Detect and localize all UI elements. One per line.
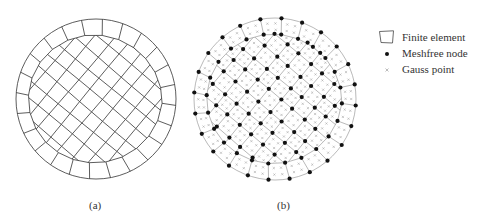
panel-b-caption: (b) — [277, 199, 290, 211]
meshfree-node — [306, 41, 310, 45]
meshfree-node — [300, 95, 304, 99]
meshfree-node — [333, 104, 337, 108]
meshfree-node — [308, 170, 312, 174]
panel-a-caption: (a) — [89, 199, 101, 211]
meshfree-node — [220, 35, 224, 39]
meshfree-node — [313, 127, 317, 131]
meshfree-node — [270, 131, 274, 135]
meshfree-node — [238, 145, 242, 149]
meshfree-node — [340, 101, 344, 105]
meshfree-node — [353, 82, 357, 86]
meshfree-node — [320, 71, 324, 75]
meshfree-node — [192, 90, 196, 94]
meshfree-node — [286, 42, 290, 46]
meshfree-node — [205, 93, 209, 97]
meshfree-node — [222, 69, 226, 73]
meshfree-node — [235, 102, 239, 106]
meshfree-node — [225, 112, 229, 116]
legend-label: Finite element — [402, 31, 465, 43]
meshfree-node — [333, 70, 337, 74]
meshfree-node — [273, 153, 277, 157]
meshfree-node — [296, 51, 300, 55]
meshfree-node — [247, 112, 251, 116]
meshfree-node — [267, 87, 271, 91]
meshfree-node — [206, 51, 210, 55]
meshfree-node — [346, 62, 350, 66]
meshfree-node — [214, 103, 218, 107]
meshfree-node — [327, 134, 331, 138]
meshfree-node — [280, 119, 284, 123]
meshfree-node — [258, 17, 262, 21]
meshfree-node — [227, 136, 231, 140]
meshfree-node — [296, 37, 300, 41]
meshfree-node — [266, 178, 270, 182]
meshfree-node — [289, 86, 293, 90]
panel-b-meshfree-mesh — [150, 0, 410, 219]
meshfree-node — [211, 149, 215, 153]
meshfree-node — [268, 110, 272, 114]
legend-label: Meshfree node — [402, 47, 468, 59]
meshfree-node — [311, 45, 315, 49]
meshfree-node — [298, 75, 302, 79]
meshfree-node — [324, 114, 328, 118]
meshfree-node — [335, 119, 339, 123]
meshfree-node — [283, 141, 287, 145]
meshfree-node — [241, 47, 245, 51]
meshfree-node — [309, 84, 313, 88]
meshfree-node — [252, 56, 256, 60]
meshfree-node — [211, 82, 215, 86]
meshfree-node — [215, 125, 219, 129]
meshfree-node — [300, 21, 304, 25]
legend: Finite element Meshfree node Gauss point — [376, 29, 468, 77]
meshfree-node — [200, 132, 204, 136]
meshfree-node — [279, 97, 283, 101]
meshfree-node — [206, 111, 210, 115]
meshfree-node — [216, 60, 220, 64]
meshfree-node — [245, 90, 249, 94]
meshfree-node — [279, 16, 283, 20]
meshfree-node — [249, 132, 253, 136]
legend-item-meshfree-node: Meshfree node — [376, 45, 468, 61]
legend-item-gauss-point: Gauss point — [376, 61, 468, 77]
meshfree-node — [340, 143, 344, 147]
meshfree-node — [233, 79, 237, 83]
meshfree-node — [243, 67, 247, 71]
meshfree-node — [294, 150, 298, 154]
meshfree-node — [303, 118, 307, 122]
meshfree-node — [259, 121, 263, 125]
legend-label: Gauss point — [402, 63, 454, 75]
meshfree-node — [266, 161, 270, 165]
meshfree-node — [286, 64, 290, 68]
meshfree-node — [325, 159, 329, 163]
meshfree-node — [290, 107, 294, 111]
meshfree-node — [251, 155, 255, 159]
meshfree-node — [193, 112, 197, 116]
meshfree-node — [318, 51, 322, 55]
meshfree-node — [197, 70, 201, 74]
meshfree-node — [299, 156, 303, 160]
meshfree-node — [262, 33, 266, 37]
meshfree-node — [222, 141, 226, 145]
gray-cross-icon — [376, 62, 398, 76]
meshfree-node — [229, 47, 233, 51]
meshfree-node — [283, 161, 287, 165]
meshfree-node — [246, 173, 250, 177]
meshfree-node — [322, 95, 326, 99]
meshfree-node — [276, 76, 280, 80]
meshfree-node — [349, 124, 353, 128]
meshfree-node — [244, 37, 248, 41]
meshfree-node — [288, 177, 292, 181]
meshfree-node — [261, 143, 265, 147]
meshfree-node — [323, 56, 327, 60]
meshfree-node — [256, 78, 260, 82]
quad-element-icon — [376, 30, 398, 44]
meshfree-node — [332, 82, 336, 86]
meshfree-node — [265, 67, 269, 71]
meshfree-node — [263, 44, 267, 48]
meshfree-node — [303, 139, 307, 143]
meshfree-node — [338, 85, 342, 89]
meshfree-node — [238, 123, 242, 127]
meshfree-node — [335, 44, 339, 48]
meshfree-node — [272, 32, 276, 36]
meshfree-node — [232, 58, 236, 62]
